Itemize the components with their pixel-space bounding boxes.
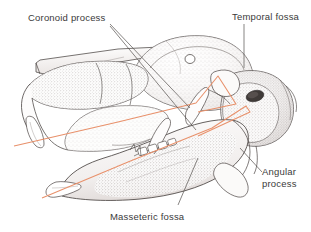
orbital-foramen [185, 55, 195, 64]
label-angular-line2: process [262, 178, 297, 189]
anatomical-figure: Coronoid process Temporal fossa Angularp… [0, 0, 311, 232]
label-coronoid-process: Coronoid process [28, 12, 106, 24]
label-angular-line1: Angular [262, 166, 296, 177]
skull-illustration [0, 0, 311, 232]
angular-process-feature [214, 163, 249, 197]
label-angular-process: Angularprocess [262, 166, 297, 189]
leader-angular [240, 148, 262, 172]
label-temporal-fossa: Temporal fossa [232, 11, 299, 23]
label-masseteric-fossa: Masseteric fossa [110, 211, 184, 223]
